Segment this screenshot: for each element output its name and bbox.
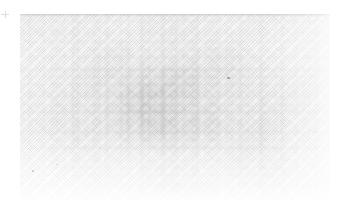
- scan-viewport: [0, 0, 340, 215]
- plate-caption: [20, 202, 330, 212]
- plate-edge-fade: [20, 14, 330, 200]
- speck-upper-left: [73, 52, 74, 53]
- speck-right: [227, 77, 230, 79]
- registration-crop-mark-icon: [1, 11, 9, 18]
- scanned-image-plate: [20, 14, 330, 200]
- speck-lower-left: [32, 170, 34, 172]
- crop-mark-vertical-tick: [5, 11, 6, 18]
